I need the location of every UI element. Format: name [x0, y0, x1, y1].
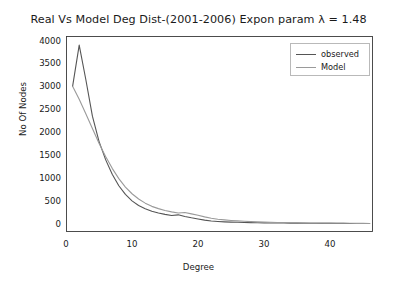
legend-swatch-model — [296, 67, 316, 68]
chart-title: Real Vs Model Deg Dist-(2001-2006) Expon… — [0, 13, 397, 26]
y-tick-label: 4000 — [17, 36, 61, 46]
y-tick-label: 2500 — [17, 104, 61, 114]
legend-label-observed: observed — [321, 49, 359, 59]
y-tick-label: 3500 — [17, 58, 61, 68]
legend-label-model: Model — [321, 62, 346, 72]
x-tick-label: 40 — [310, 239, 350, 249]
y-tick-label: 0 — [17, 219, 61, 229]
legend-swatch-observed — [296, 54, 316, 55]
y-tick-label: 2000 — [17, 127, 61, 137]
legend-item-observed: observed — [296, 48, 364, 60]
chart-legend: observed Model — [290, 43, 370, 76]
x-tick-label: 10 — [112, 239, 152, 249]
y-tick-label: 500 — [17, 196, 61, 206]
x-axis-label: Degree — [0, 262, 397, 272]
x-tick-label: 30 — [244, 239, 284, 249]
y-tick-label: 3000 — [17, 81, 61, 91]
series-line-model — [73, 86, 370, 223]
x-tick-label: 0 — [46, 239, 86, 249]
x-tick-label: 20 — [178, 239, 218, 249]
chart-figure: Real Vs Model Deg Dist-(2001-2006) Expon… — [0, 0, 397, 285]
y-tick-label: 1000 — [17, 173, 61, 183]
legend-item-model: Model — [296, 61, 364, 73]
y-tick-label: 1500 — [17, 150, 61, 160]
